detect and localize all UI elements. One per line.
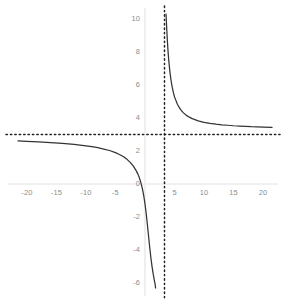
y-tick-label: 2: [136, 147, 140, 155]
y-tick-label: 10: [131, 15, 140, 23]
x-tick-label: -15: [51, 189, 62, 197]
chart-container: -20-15-10-55101520 1086420-2-4-6: [0, 0, 288, 304]
x-tick-label: 15: [229, 189, 238, 197]
x-tick-label: -10: [80, 189, 91, 197]
y-tick-label: -6: [133, 279, 140, 287]
y-tick-label: -4: [133, 246, 140, 254]
y-tick-label: 8: [136, 48, 140, 56]
y-tick-label: 4: [136, 114, 140, 122]
x-tick-label: 10: [200, 189, 209, 197]
y-tick-label: 6: [136, 81, 140, 89]
curve-right-branch: [166, 14, 272, 127]
y-tick-label: -2: [133, 213, 140, 221]
x-tick-label: -5: [112, 189, 119, 197]
x-tick-label: 5: [172, 189, 176, 197]
x-tick-label: 20: [259, 189, 268, 197]
plot-area: [0, 0, 288, 304]
y-tick-label: 0: [136, 180, 140, 188]
x-tick-label: -20: [21, 189, 32, 197]
